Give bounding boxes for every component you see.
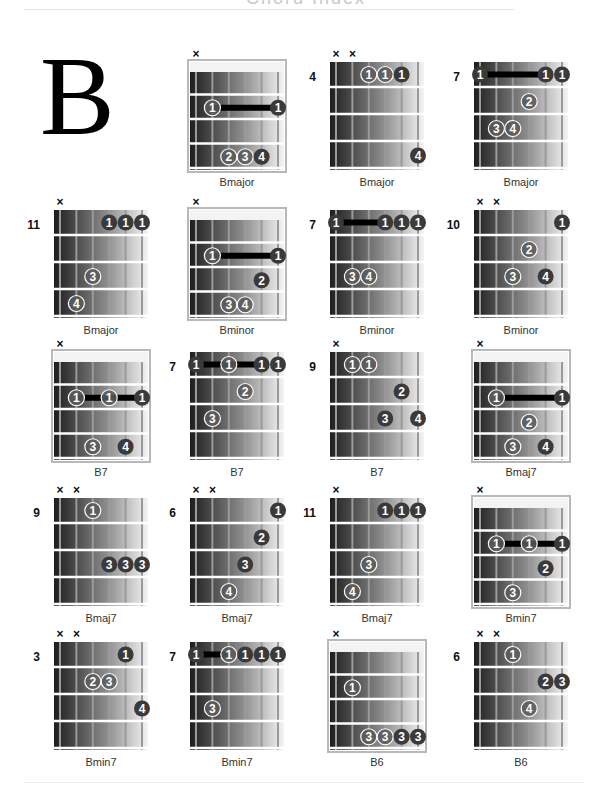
finger-dot: 1 <box>270 100 286 116</box>
finger-dot: 1 <box>361 67 377 83</box>
finger-number: 3 <box>225 298 232 312</box>
finger-number: 4 <box>526 702 533 716</box>
finger-number: 1 <box>349 358 356 372</box>
muted-string-x: × <box>56 483 63 497</box>
nut <box>474 352 568 362</box>
chord-diagram: 9××1333Bmaj7 <box>30 484 180 634</box>
fretboard-svg: 11×11134 <box>306 484 456 624</box>
finger-number: 3 <box>139 558 146 572</box>
finger-dot: 3 <box>237 149 253 165</box>
finger-number: 4 <box>365 270 372 284</box>
key-letter-heading: B <box>40 40 115 152</box>
finger-number: 2 <box>258 531 265 545</box>
finger-dot: 3 <box>505 439 521 455</box>
chord-name-label: Bmin7 <box>26 756 176 768</box>
fretboard-svg: ×11234 <box>166 48 316 188</box>
finger-dot: 3 <box>85 439 101 455</box>
muted-string-x: × <box>192 47 199 61</box>
chord-diagram: 7111123B7 <box>166 338 316 488</box>
finger-dot: 3 <box>344 269 360 285</box>
finger-number: 3 <box>122 558 129 572</box>
finger-dot: 4 <box>221 584 237 600</box>
finger-number: 1 <box>398 504 405 518</box>
start-fret-label: 6 <box>169 506 176 520</box>
finger-dot: 4 <box>361 269 377 285</box>
finger-number: 4 <box>542 270 549 284</box>
fretboard-svg: 9××1333 <box>30 484 180 624</box>
muted-string-x: × <box>476 337 483 351</box>
fretboard-svg: 7111113 <box>166 628 316 768</box>
finger-number: 3 <box>242 150 249 164</box>
finger-number: 1 <box>275 504 282 518</box>
chord-diagram: 6××1234B6 <box>450 628 600 778</box>
finger-dot: 1 <box>270 357 286 373</box>
finger-number: 3 <box>509 586 516 600</box>
fretboard-svg: ×11234 <box>166 196 316 336</box>
finger-dot: 1 <box>410 503 426 519</box>
finger-number: 1 <box>526 537 533 551</box>
finger-number: 3 <box>209 412 216 426</box>
finger-number: 3 <box>509 270 516 284</box>
finger-dot: 3 <box>377 411 393 427</box>
finger-dot: 1 <box>554 215 570 231</box>
chord-name-label: B7 <box>26 466 176 478</box>
muted-string-x: × <box>493 195 500 209</box>
finger-number: 1 <box>193 648 200 662</box>
finger-dot: 2 <box>538 674 554 690</box>
finger-dot: 3 <box>361 557 377 573</box>
finger-number: 3 <box>365 558 372 572</box>
finger-dot: 1 <box>134 215 150 231</box>
nut <box>54 352 148 362</box>
fretboard-svg: 6××1234 <box>166 484 316 624</box>
chord-name-label: B7 <box>302 466 452 478</box>
finger-number: 1 <box>365 68 372 82</box>
fretboard <box>190 352 284 460</box>
finger-number: 1 <box>333 216 340 230</box>
finger-number: 1 <box>258 358 265 372</box>
finger-number: 4 <box>73 297 80 311</box>
finger-dot: 3 <box>377 729 393 745</box>
finger-dot: 4 <box>344 584 360 600</box>
finger-dot: 4 <box>538 269 554 285</box>
finger-number: 1 <box>542 68 549 82</box>
chord-diagram: ×11234Bmaj7 <box>450 338 600 488</box>
barre <box>496 395 562 401</box>
fretboard-svg: 10××1234 <box>450 196 600 336</box>
start-fret-label: 6 <box>453 650 460 664</box>
finger-dot: 3 <box>204 701 220 717</box>
start-fret-label: 7 <box>169 360 176 374</box>
fretboard <box>474 210 568 318</box>
finger-number: 3 <box>382 730 389 744</box>
finger-dot: 4 <box>521 701 537 717</box>
chord-name-label: Bmajor <box>162 176 312 188</box>
finger-number: 4 <box>509 122 516 136</box>
fretboard-svg: 3××1234 <box>30 628 180 768</box>
fretboard-svg: ×13333 <box>306 628 456 768</box>
finger-number: 1 <box>275 249 282 263</box>
finger-dot: 2 <box>221 149 237 165</box>
finger-dot: 1 <box>377 503 393 519</box>
finger-dot: 1 <box>237 647 253 663</box>
muted-string-x: × <box>73 627 80 641</box>
chord-name-label: Bmaj7 <box>26 612 176 624</box>
finger-number: 4 <box>122 440 129 454</box>
finger-number: 3 <box>242 558 249 572</box>
finger-number: 1 <box>275 648 282 662</box>
finger-number: 1 <box>382 504 389 518</box>
finger-number: 3 <box>209 702 216 716</box>
finger-dot: 3 <box>554 674 570 690</box>
finger-dot: 1 <box>270 647 286 663</box>
finger-dot: 3 <box>505 585 521 601</box>
finger-number: 2 <box>89 675 96 689</box>
fretboard-svg: 9×11234 <box>306 338 456 478</box>
finger-number: 2 <box>526 243 533 257</box>
fretboard-svg: ×11234 <box>450 338 600 478</box>
muted-string-x: × <box>192 483 199 497</box>
finger-dot: 2 <box>521 414 537 430</box>
muted-string-x: × <box>476 195 483 209</box>
finger-number: 1 <box>275 358 282 372</box>
finger-number: 1 <box>139 216 146 230</box>
muted-string-x: × <box>332 337 339 351</box>
finger-number: 3 <box>493 122 500 136</box>
finger-dot: 1 <box>394 503 410 519</box>
